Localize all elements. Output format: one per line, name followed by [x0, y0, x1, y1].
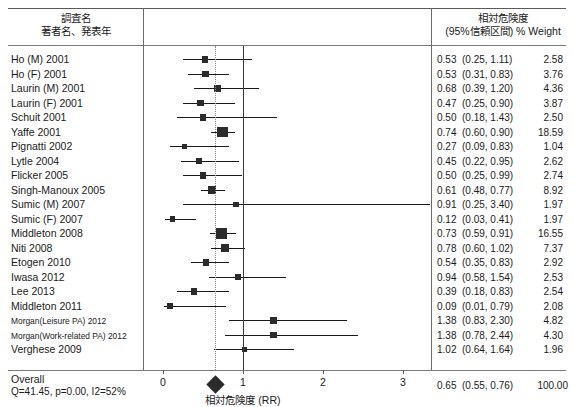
stat-ci: (0.25, 0.99) — [462, 170, 513, 181]
study-marker — [217, 127, 228, 138]
study-label: Verghese 2009 — [11, 344, 82, 355]
study-label: Singh-Manoux 2005 — [11, 185, 105, 196]
stat-weight: 1.97 — [529, 214, 563, 225]
axis-tick — [323, 370, 324, 374]
study-marker — [200, 114, 206, 120]
study-label: Morgan(Leisure PA) 2012 — [11, 316, 106, 327]
overall-stat-weight: 100.00 — [523, 380, 568, 391]
study-marker — [167, 303, 173, 309]
stat-weight: 2.92 — [529, 257, 563, 268]
confidence-interval-line — [183, 103, 235, 104]
left-column-header: 調査名 著者名、発表年 — [8, 12, 143, 38]
stat-rr: 0.78 — [437, 243, 456, 254]
study-label: Schuit 2001 — [11, 112, 66, 123]
stat-rr: 0.74 — [437, 127, 456, 138]
study-label: Laurin (F) 2001 — [11, 98, 83, 109]
stat-ci: (0.59, 0.91) — [462, 228, 513, 239]
axis-tick-label: 2 — [313, 376, 333, 388]
study-marker — [233, 202, 239, 208]
stat-rr: 0.09 — [437, 301, 456, 312]
stat-ci: (0.09, 0.83) — [462, 141, 513, 152]
stat-rr: 0.91 — [437, 199, 456, 210]
stat-rr: 0.94 — [437, 272, 456, 283]
stat-weight: 2.50 — [529, 112, 563, 123]
pooled-estimate-line — [215, 46, 216, 370]
stat-rr: 0.53 — [437, 69, 456, 80]
stat-rr: 0.53 — [437, 54, 456, 65]
stat-weight: 4.82 — [529, 315, 563, 326]
study-marker — [182, 144, 187, 149]
stat-rr: 0.50 — [437, 170, 456, 181]
confidence-interval-line — [214, 349, 294, 350]
study-marker — [216, 228, 226, 238]
plot-bottom-rule — [8, 370, 566, 371]
stat-ci: (0.60, 0.90) — [462, 127, 513, 138]
right-column-divider — [431, 8, 432, 370]
stat-rr: 0.27 — [437, 141, 456, 152]
confidence-interval-line — [164, 306, 226, 307]
stat-weight: 8.92 — [529, 185, 563, 196]
header-rule — [8, 45, 566, 46]
stat-weight: 16.55 — [529, 228, 563, 239]
header-author-year: 著者名、発表年 — [8, 25, 143, 38]
stat-ci: (0.64, 1.64) — [462, 344, 513, 355]
stat-weight: 4.36 — [529, 83, 563, 94]
stat-weight: 18.59 — [529, 127, 563, 138]
study-marker — [221, 244, 229, 252]
study-label: Iwasa 2012 — [11, 272, 65, 283]
study-label: Morgan(Work-related PA) 2012 — [11, 331, 127, 342]
header-relative-risk: 相対危険度 — [432, 12, 574, 25]
stat-rr: 0.39 — [437, 286, 456, 297]
stat-rr: 0.45 — [437, 156, 456, 167]
axis-title: 相対危険度 (RR) — [163, 392, 323, 407]
axis-tick — [243, 370, 244, 374]
study-marker — [270, 332, 277, 339]
axis-tick-label: 0 — [153, 376, 173, 388]
study-marker — [203, 259, 209, 265]
stat-weight: 4.30 — [529, 330, 563, 341]
confidence-interval-line — [177, 291, 229, 292]
stat-weight: 2.53 — [529, 272, 563, 283]
stat-rr: 0.50 — [437, 112, 456, 123]
study-label: Lytle 2004 — [11, 156, 59, 167]
study-marker — [191, 288, 197, 294]
study-label: Ho (F) 2001 — [11, 69, 67, 80]
stat-ci: (0.18, 0.83) — [462, 286, 513, 297]
confidence-interval-line — [183, 59, 252, 60]
study-marker — [197, 100, 204, 107]
study-marker — [235, 274, 241, 280]
confidence-interval-line — [177, 117, 277, 118]
study-marker — [202, 71, 209, 78]
study-marker — [270, 317, 277, 324]
confidence-interval-line — [170, 146, 229, 147]
axis-tick-label: 1 — [233, 376, 253, 388]
study-marker — [200, 172, 206, 178]
confidence-interval-line — [183, 175, 242, 176]
axis-tick — [163, 370, 164, 374]
stat-rr: 0.47 — [437, 98, 456, 109]
null-effect-line — [243, 46, 244, 370]
study-label: Middleton 2011 — [11, 301, 82, 312]
stat-weight: 1.96 — [529, 344, 563, 355]
confidence-interval-line — [191, 262, 229, 263]
stat-ci: (0.01, 0.79) — [462, 301, 513, 312]
stat-weight: 2.74 — [529, 170, 563, 181]
stat-weight: 2.08 — [529, 301, 563, 312]
confidence-interval-line — [183, 204, 430, 205]
study-label: Pignatti 2002 — [11, 141, 72, 152]
stat-ci: (0.60, 1.02) — [462, 243, 513, 254]
overall-stat-rr: 0.65 — [437, 380, 456, 391]
stat-ci: (0.18, 1.43) — [462, 112, 513, 123]
stat-weight: 1.04 — [529, 141, 563, 152]
study-marker — [196, 158, 202, 164]
overall-stat-ci: (0.55, 0.76) — [462, 380, 513, 391]
stat-weight: 7.37 — [529, 243, 563, 254]
summary-diamond — [206, 375, 224, 393]
stat-ci: (0.35, 0.83) — [462, 257, 513, 268]
stat-ci: (0.31, 0.83) — [462, 69, 513, 80]
stat-rr: 0.73 — [437, 228, 456, 239]
confidence-interval-line — [229, 320, 347, 321]
header-ci-weight: (95%信頼区間) % Weight — [432, 25, 574, 38]
stat-rr: 0.68 — [437, 83, 456, 94]
